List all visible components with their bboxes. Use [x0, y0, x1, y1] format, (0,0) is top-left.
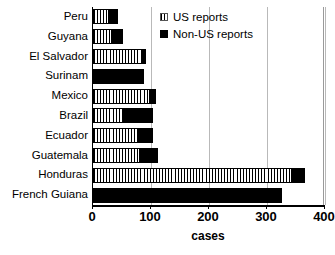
legend-item-us-reports: US reports — [160, 9, 253, 24]
bar-segment-non-us-reports — [93, 188, 282, 203]
bar-segment-non-us-reports — [149, 89, 156, 104]
bar-row — [93, 66, 144, 86]
y-axis-label-guatemala: Guatemala — [0, 146, 88, 166]
y-axis-label-guyana: Guyana — [0, 27, 88, 47]
bar-chart: PeruGuyanaEl SalvadorSurinamMexicoBrazil… — [0, 0, 335, 255]
bar-segment-us-reports — [93, 128, 138, 143]
bar-row — [93, 126, 153, 146]
y-axis-label-brazil: Brazil — [0, 106, 88, 126]
bar-row — [93, 106, 153, 126]
bar-row — [93, 7, 118, 27]
bar-row — [93, 185, 282, 205]
bar-segment-us-reports — [93, 49, 141, 64]
y-axis-label-french-guiana: French Guiana — [0, 185, 88, 205]
bar-segment-us-reports — [93, 148, 139, 163]
bar-segment-non-us-reports — [108, 9, 118, 24]
x-axis-tick-label-200: 200 — [188, 209, 228, 224]
x-axis-tick-label-400: 400 — [304, 209, 335, 224]
y-axis-label-surinam: Surinam — [0, 66, 88, 86]
bar-segment-us-reports — [93, 29, 111, 44]
bar-segment-us-reports — [93, 168, 291, 183]
y-axis-label-peru: Peru — [0, 7, 88, 27]
bar-segment-us-reports — [93, 108, 123, 123]
bar-segment-non-us-reports — [93, 69, 144, 84]
legend-item-non-us-reports: Non-US reports — [160, 26, 253, 41]
y-axis-label-mexico: Mexico — [0, 86, 88, 106]
bar-row — [93, 146, 158, 166]
bar-segment-non-us-reports — [139, 148, 158, 163]
x-axis-tick-label-0: 0 — [72, 209, 112, 224]
y-axis-label-honduras: Honduras — [0, 165, 88, 185]
chart-legend: US reportsNon-US reports — [160, 9, 253, 43]
bar-segment-non-us-reports — [138, 128, 153, 143]
bar-segment-us-reports — [93, 89, 149, 104]
striped-swatch-icon — [160, 13, 168, 21]
y-axis-category-labels: PeruGuyanaEl SalvadorSurinamMexicoBrazil… — [0, 7, 88, 205]
bar-row — [93, 86, 156, 106]
legend-item-label: Non-US reports — [173, 28, 253, 40]
bar-segment-non-us-reports — [123, 108, 153, 123]
x-axis-tick-label-300: 300 — [246, 209, 286, 224]
y-axis-label-el-salvador: El Salvador — [0, 47, 88, 67]
bar-segment-us-reports — [93, 9, 108, 24]
legend-item-label: US reports — [173, 11, 228, 23]
bar-segment-non-us-reports — [291, 168, 305, 183]
bar-row — [93, 27, 123, 47]
x-axis-tick-label-100: 100 — [130, 209, 170, 224]
y-axis-label-ecuador: Ecuador — [0, 126, 88, 146]
black-swatch-icon — [160, 30, 168, 38]
bar-segment-non-us-reports — [111, 29, 123, 44]
bar-segment-non-us-reports — [141, 49, 146, 64]
gridline-400 — [325, 7, 326, 205]
x-axis-title: cases — [92, 229, 324, 243]
bar-row — [93, 47, 146, 67]
bar-row — [93, 165, 305, 185]
